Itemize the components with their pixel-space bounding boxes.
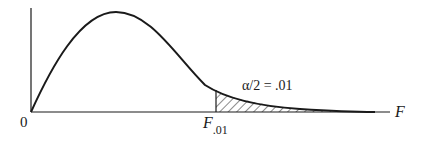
- critical-value-symbol: F: [203, 114, 213, 131]
- critical-value-subscript: .01: [213, 123, 228, 137]
- critical-value-label: F.01: [203, 114, 228, 132]
- origin-label: 0: [20, 114, 28, 131]
- density-curve: [31, 12, 375, 112]
- x-axis-label: F: [395, 103, 405, 121]
- tail-area-annotation: α/2 = .01: [242, 78, 293, 94]
